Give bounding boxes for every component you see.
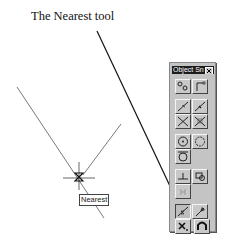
magnet-icon xyxy=(195,220,209,233)
leader-line xyxy=(97,31,177,201)
snap-intersection-x-button[interactable] xyxy=(175,114,191,129)
snap-node-button[interactable] xyxy=(175,184,191,199)
osnap-settings-button[interactable] xyxy=(194,219,210,234)
perpendicular-icon xyxy=(176,170,190,183)
snap-apparent-intersection-button[interactable] xyxy=(192,114,208,129)
snap-insert-button[interactable] xyxy=(192,169,208,184)
object-snap-toolbar[interactable]: Object Sn xyxy=(169,62,216,232)
nearest-icon xyxy=(176,205,190,218)
snap-quadrant-button[interactable] xyxy=(192,134,208,149)
close-button[interactable] xyxy=(205,67,213,74)
snap-nearest-button[interactable] xyxy=(175,204,191,219)
drawing-line-right xyxy=(83,124,121,175)
snap-perpendicular-button[interactable] xyxy=(175,169,191,184)
center-icon xyxy=(176,135,190,148)
toolbar-title: Object Sn xyxy=(173,66,204,73)
snap-from-button[interactable] xyxy=(175,79,191,94)
tangent-icon xyxy=(176,150,190,163)
snap-quick-button[interactable] xyxy=(192,204,208,219)
apparent-intersection-icon xyxy=(193,115,207,128)
snap-midpoint-button[interactable] xyxy=(175,99,191,114)
quick-icon xyxy=(193,205,207,218)
snap-endpoint-button[interactable] xyxy=(192,79,208,94)
crosshair-cursor xyxy=(63,162,95,190)
none-icon xyxy=(176,220,190,233)
endpoint-icon xyxy=(193,80,207,93)
snap-none-button[interactable] xyxy=(175,219,191,234)
nearest-tooltip: Nearest xyxy=(79,194,109,206)
intersection-icon xyxy=(193,100,207,113)
quadrant-icon xyxy=(193,135,207,148)
snap-tangent-button[interactable] xyxy=(175,149,191,164)
snap-from-icon xyxy=(176,80,190,93)
intersection-icon xyxy=(176,115,190,128)
close-icon xyxy=(206,68,212,74)
insert-icon xyxy=(193,170,207,183)
midpoint-icon xyxy=(176,100,190,113)
node-icon xyxy=(176,185,190,198)
toolbar-title-bar[interactable]: Object Sn xyxy=(172,66,214,74)
snap-intersection-button[interactable] xyxy=(192,99,208,114)
snap-center-button[interactable] xyxy=(175,134,191,149)
